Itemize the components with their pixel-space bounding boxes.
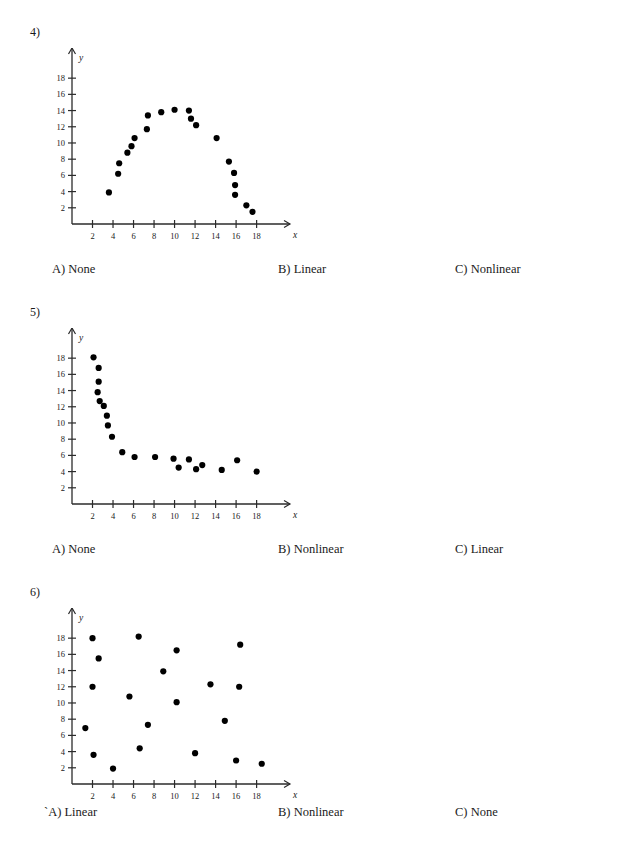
answer-options-6: `A) Linear B) Nonlinear C) None [0, 805, 629, 825]
data-point [233, 757, 239, 763]
data-point [124, 150, 130, 156]
y-axis-tick-label: 6 [61, 730, 65, 740]
data-point [219, 467, 225, 473]
answer-option-c[interactable]: C) Linear [455, 542, 503, 557]
y-axis-tick-label: 6 [61, 170, 65, 180]
y-axis-tick-label: 2 [61, 203, 65, 213]
y-axis-tick-label: 16 [57, 369, 66, 379]
x-axis-tick-label: 8 [152, 791, 156, 801]
y-axis-tick-label: 16 [57, 89, 66, 99]
x-axis-tick-label: 6 [131, 511, 135, 521]
answer-options-4: A) None B) Linear C) Nonlinear [0, 262, 629, 282]
y-axis-tick-label: 10 [57, 138, 66, 148]
y-axis-tick-label: 2 [61, 483, 65, 493]
data-point [96, 655, 102, 661]
y-axis-tick-label: 2 [61, 763, 65, 773]
x-axis-tick-label: 4 [111, 511, 116, 521]
data-point [176, 464, 182, 470]
y-axis-tick-label: 16 [57, 649, 66, 659]
x-axis-tick-label: 18 [252, 791, 261, 801]
x-axis-tick-label: 4 [111, 791, 116, 801]
data-point [254, 468, 260, 474]
data-point [232, 182, 238, 188]
data-point [188, 116, 194, 122]
data-point [259, 761, 265, 767]
answer-option-c[interactable]: C) Nonlinear [455, 262, 521, 277]
answer-option-a[interactable]: A) None [52, 262, 95, 277]
x-axis-tick-label: 12 [191, 791, 200, 801]
data-point [116, 160, 122, 166]
x-axis-tick-label: 2 [90, 511, 94, 521]
x-axis-tick-label: 8 [152, 511, 156, 521]
y-axis-tick-label: 4 [61, 467, 66, 477]
x-axis-label: x [292, 510, 298, 520]
answer-option-a[interactable]: A) None [52, 542, 95, 557]
data-point [214, 135, 220, 141]
data-point [236, 684, 242, 690]
y-axis-tick-label: 12 [57, 122, 66, 132]
data-point [160, 668, 166, 674]
x-axis-tick-label: 8 [152, 231, 156, 241]
x-axis-tick-label: 2 [90, 791, 94, 801]
data-point [170, 456, 176, 462]
x-axis-tick-label: 16 [232, 511, 241, 521]
x-axis-tick-label: 2 [90, 231, 94, 241]
y-axis-tick-label: 14 [57, 386, 66, 396]
x-axis-tick-label: 6 [131, 231, 135, 241]
data-point [249, 209, 255, 215]
data-point [192, 750, 198, 756]
data-point [104, 413, 110, 419]
y-axis-tick-label: 6 [61, 450, 65, 460]
answer-option-a[interactable]: `A) Linear [44, 805, 97, 820]
answer-options-5: A) None B) Nonlinear C) Linear [0, 542, 629, 562]
data-point [82, 725, 88, 731]
x-axis-tick-label: 14 [211, 511, 220, 521]
answer-option-b[interactable]: B) Nonlinear [278, 805, 344, 820]
x-axis-tick-label: 4 [111, 231, 116, 241]
y-axis-tick-label: 10 [57, 698, 66, 708]
question-number: 6) [30, 585, 40, 600]
x-axis-label: x [292, 230, 298, 240]
answer-option-c[interactable]: C) None [455, 805, 498, 820]
answer-option-b[interactable]: B) Linear [278, 262, 326, 277]
data-point [97, 398, 103, 404]
scatter-plot-6: 2468101214161824681012141618xy [48, 608, 298, 808]
data-point [243, 202, 249, 208]
data-point [131, 135, 137, 141]
scatter-plot-4: 2468101214161824681012141618xy [48, 48, 298, 248]
question-number: 4) [30, 25, 40, 40]
data-point [193, 122, 199, 128]
data-point [174, 699, 180, 705]
y-axis-label: y [78, 53, 84, 63]
question-number: 5) [30, 305, 40, 320]
data-point [106, 189, 112, 195]
data-point [144, 126, 150, 132]
y-axis-tick-label: 14 [57, 106, 66, 116]
data-point [136, 633, 142, 639]
answer-option-b[interactable]: B) Nonlinear [278, 542, 344, 557]
data-point [131, 454, 137, 460]
y-axis-label: y [78, 613, 84, 623]
data-point [158, 109, 164, 115]
x-axis-tick-label: 6 [131, 791, 135, 801]
data-point [90, 354, 96, 360]
x-axis-label: x [292, 790, 298, 800]
y-axis-tick-label: 8 [61, 154, 65, 164]
data-point [145, 722, 151, 728]
data-point [101, 403, 107, 409]
x-axis-tick-label: 12 [191, 231, 200, 241]
data-point [96, 365, 102, 371]
data-point [231, 170, 237, 176]
data-point [186, 456, 192, 462]
x-axis-tick-label: 10 [170, 791, 179, 801]
data-point [199, 462, 205, 468]
y-axis-tick-label: 8 [61, 434, 65, 444]
data-point [232, 192, 238, 198]
data-point [152, 454, 158, 460]
data-point [193, 466, 199, 472]
data-point [171, 107, 177, 113]
data-point [110, 766, 116, 772]
y-axis-tick-label: 4 [61, 747, 66, 757]
data-point [119, 449, 125, 455]
y-axis-tick-label: 4 [61, 187, 66, 197]
